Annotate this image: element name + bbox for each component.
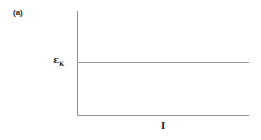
y-label-subscript: K bbox=[59, 60, 64, 67]
x-axis-label: I bbox=[161, 121, 165, 131]
y-axis-label: εK bbox=[53, 54, 64, 67]
panel-label: (a) bbox=[13, 8, 23, 17]
figure: (a) εK I bbox=[0, 0, 261, 140]
plot-area bbox=[0, 0, 261, 140]
